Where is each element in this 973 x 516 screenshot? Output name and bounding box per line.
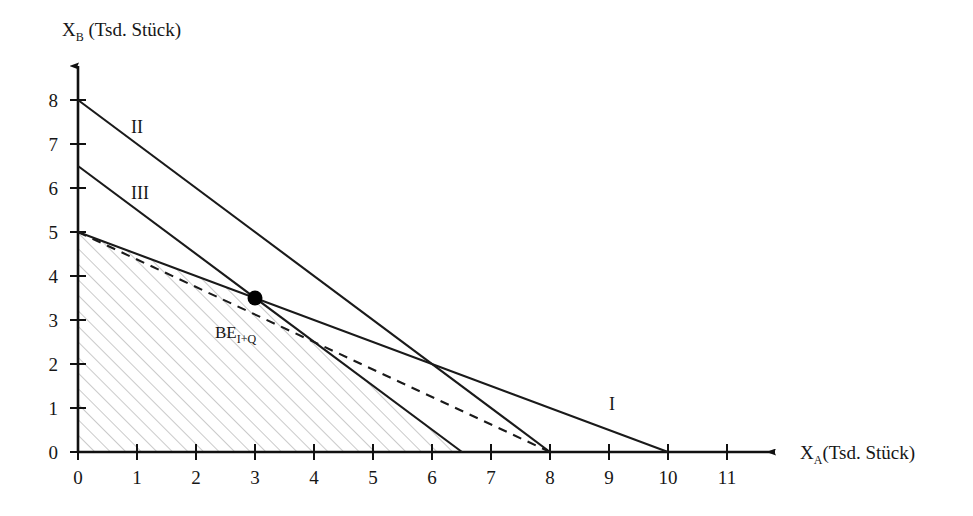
x-tick-label: 6 [427, 467, 437, 488]
y-tick-label: 6 [49, 178, 59, 199]
x-axis-title-main: X [800, 442, 814, 463]
x-tick-label: 9 [604, 467, 614, 488]
equilibrium-label-main: BE [215, 323, 237, 342]
y-axis-title: XB (Tsd. Stück) [62, 19, 181, 44]
y-axis-title-main: X [62, 19, 76, 40]
x-tick-label: 2 [191, 467, 201, 488]
x-tick-label: 10 [659, 467, 678, 488]
equilibrium-point [248, 291, 263, 306]
curve-label-III: III [131, 183, 149, 203]
curve-label-I: I [609, 394, 615, 414]
y-tick-label: 4 [49, 266, 59, 287]
y-tick-label: 1 [49, 398, 59, 419]
equilibrium-label-subscript: I+Q [237, 332, 257, 346]
y-tick-label: 2 [49, 354, 59, 375]
x-tick-label: 3 [250, 467, 260, 488]
chart-svg: 0 1 2 3 4 5 6 7 8 0 1 2 3 4 5 6 7 8 9 10… [0, 0, 973, 516]
x-tick-label: 11 [718, 467, 736, 488]
y-tick-label: 0 [49, 442, 59, 463]
x-tick-label: 0 [73, 467, 83, 488]
x-axis-title-subscript: A [814, 453, 823, 467]
y-tick-label: 3 [49, 310, 59, 331]
x-axis-title-unit: (Tsd. Stück) [822, 442, 915, 464]
x-tick-label: 5 [368, 467, 378, 488]
y-tick-labels: 0 1 2 3 4 5 6 7 8 [49, 90, 59, 463]
x-tick-label: 4 [309, 467, 319, 488]
y-tick-label: 7 [49, 134, 59, 155]
x-tick-label: 7 [486, 467, 496, 488]
x-tick-label: 1 [132, 467, 142, 488]
y-tick-label: 8 [49, 90, 59, 111]
y-tick-label: 5 [49, 222, 59, 243]
svg-text:XB (Tsd. Stück): XB (Tsd. Stück) [62, 19, 181, 44]
feasible-region [78, 232, 462, 452]
x-axis-title: XA(Tsd. Stück) [800, 442, 915, 467]
svg-text:XA(Tsd. Stück): XA(Tsd. Stück) [800, 442, 915, 467]
curve-label-II: II [131, 117, 143, 137]
y-axis-title-subscript: B [76, 30, 84, 44]
chart-figure: 0 1 2 3 4 5 6 7 8 0 1 2 3 4 5 6 7 8 9 10… [0, 0, 973, 516]
y-axis-title-unit: (Tsd. Stück) [84, 19, 181, 41]
x-tick-labels: 0 1 2 3 4 5 6 7 8 9 10 11 [73, 467, 736, 488]
x-tick-label: 8 [545, 467, 555, 488]
